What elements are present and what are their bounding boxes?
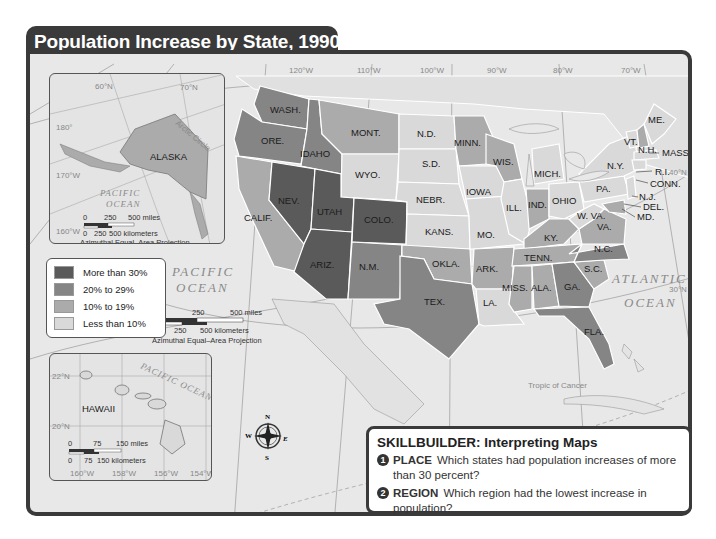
label-nc: N.C. — [594, 243, 613, 254]
label-mo: MO. — [477, 229, 495, 240]
svg-text:170°W: 170°W — [56, 171, 81, 180]
label-wva: W. VA. — [577, 210, 605, 221]
label-ark: ARK. — [476, 263, 498, 274]
lat-40n: 40°N — [669, 168, 687, 177]
caribbean-islands — [564, 344, 664, 414]
label-wis: WIS. — [493, 156, 514, 167]
label-ga: GA. — [564, 281, 580, 292]
lon-100w: 100°W — [420, 66, 445, 75]
label-ky: KY. — [544, 232, 558, 243]
svg-text:500 kilometers: 500 kilometers — [200, 326, 249, 335]
svg-text:22°N: 22°N — [52, 372, 70, 381]
svg-text:250: 250 — [192, 308, 205, 317]
legend-label: Less than 10% — [83, 318, 146, 329]
label-wash: WASH. — [270, 104, 301, 115]
svg-text:500 kilometers: 500 kilometers — [109, 229, 158, 238]
legend-label: More than 30% — [83, 267, 147, 278]
svg-text:75: 75 — [93, 439, 101, 448]
state-fla — [534, 307, 614, 369]
svg-text:W: W — [245, 432, 252, 440]
legend-swatch — [54, 300, 74, 313]
label-colo: COLO. — [364, 214, 394, 225]
label-nev: NEV. — [278, 195, 299, 206]
question-keyword: REGION — [393, 487, 438, 499]
label-vt: VT. — [624, 136, 638, 147]
label-ind: IND. — [528, 199, 547, 210]
label-fla: FLA. — [584, 326, 604, 337]
lon-110w: 110°W — [357, 66, 381, 75]
legend-swatch — [54, 317, 74, 330]
label-nm: N.M. — [359, 261, 379, 272]
alaska-label: ALASKA — [150, 151, 188, 162]
lon-80w: 80°W — [553, 66, 573, 75]
svg-text:156°W: 156°W — [154, 469, 179, 478]
label-pa: PA. — [596, 183, 611, 194]
legend-label: 10% to 19% — [83, 301, 134, 312]
label-utah: UTAH — [317, 206, 342, 217]
label-mont: MONT. — [351, 127, 381, 138]
legend-swatch — [54, 266, 74, 279]
label-nh: N.H. — [638, 144, 657, 155]
svg-text:0: 0 — [68, 456, 72, 465]
svg-text:160°W: 160°W — [56, 227, 81, 236]
skillbuilder-title: SKILLBUILDER: Interpreting Maps — [377, 435, 681, 450]
svg-text:0: 0 — [68, 439, 72, 448]
legend-item: Less than 10% — [54, 317, 146, 330]
skillbuilder-box: SKILLBUILDER: Interpreting Maps 1 PLACEW… — [366, 426, 692, 514]
label-md: MD. — [637, 211, 654, 222]
legend-item: More than 30% — [54, 266, 147, 279]
alaska-inset: ALASKA 60°N 70°N 180° 170°W 160°W Arctic… — [49, 73, 225, 244]
question-item: 2 REGIONWhich region had the lowest incr… — [377, 486, 681, 516]
svg-text:500 miles: 500 miles — [128, 213, 160, 222]
label-iowa: IOWA — [466, 186, 492, 197]
label-ill: ILL. — [506, 202, 522, 213]
label-ny: N.Y. — [607, 160, 624, 171]
label-sc: S.C. — [584, 263, 602, 274]
label-me: ME. — [648, 114, 665, 125]
label-ri: R.I. — [655, 166, 670, 177]
label-mich: MICH. — [534, 168, 561, 179]
label-okla: OKLA. — [432, 258, 460, 269]
svg-text:180°: 180° — [56, 123, 73, 132]
svg-text:154°W: 154°W — [190, 469, 212, 478]
svg-text:PACIFIC: PACIFIC — [99, 188, 140, 198]
svg-text:20°N: 20°N — [52, 422, 70, 431]
svg-text:E: E — [282, 435, 288, 443]
svg-text:500 miles: 500 miles — [230, 308, 262, 317]
state-conn — [632, 160, 646, 170]
label-tenn: TENN. — [524, 252, 553, 263]
label-conn: CONN. — [650, 178, 681, 189]
number-badge-icon: 1 — [377, 454, 389, 466]
question-item: 1 PLACEWhich states had population incre… — [377, 453, 681, 483]
lon-120w: 120°W — [289, 66, 314, 75]
label-minn: MINN. — [454, 137, 481, 148]
compass-rose-icon: N S E W — [245, 413, 288, 462]
label-sd: S.D. — [422, 158, 440, 169]
svg-text:0: 0 — [83, 213, 87, 222]
svg-text:S: S — [265, 454, 269, 462]
legend-item: 10% to 19% — [54, 300, 134, 313]
label-ala: ALA. — [531, 282, 552, 293]
svg-text:150 kilometers: 150 kilometers — [97, 456, 146, 465]
svg-text:160°W: 160°W — [70, 469, 95, 478]
label-ohio: OHIO — [552, 195, 576, 206]
label-tex: TEX. — [424, 296, 445, 307]
legend-item: 20% to 29% — [54, 283, 134, 296]
label-va: VA. — [597, 221, 612, 232]
label-la: LA. — [483, 297, 497, 308]
label-mass: MASS. — [662, 147, 692, 158]
svg-text:0: 0 — [83, 229, 87, 238]
map-legend: More than 30% 20% to 29% 10% to 19% Less… — [46, 258, 166, 338]
svg-text:158°W: 158°W — [112, 469, 137, 478]
legend-label: 20% to 29% — [83, 284, 134, 295]
svg-text:250: 250 — [94, 229, 107, 238]
svg-text:75: 75 — [84, 456, 92, 465]
atlantic-ocean-label-2: OCEAN — [624, 295, 677, 310]
tropic-of-cancer: Tropic of Cancer — [528, 381, 587, 390]
svg-text:250: 250 — [104, 213, 117, 222]
question-text: Which states had population increases of… — [393, 454, 676, 481]
lat-30n: 30°N — [669, 285, 687, 294]
pacific-ocean-label-2: OCEAN — [176, 280, 229, 295]
label-miss: MISS. — [502, 282, 528, 293]
pacific-ocean-label: PACIFIC — [171, 264, 234, 279]
